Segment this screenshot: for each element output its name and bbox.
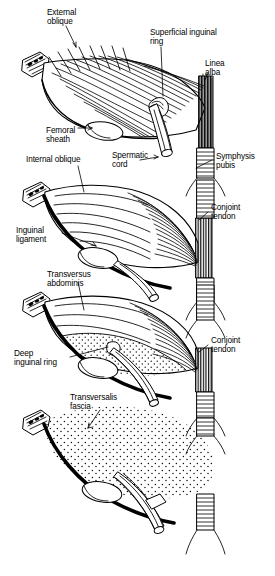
label-conjoint-tendon-2: Conjoint tendon (211, 336, 240, 355)
panel-4-group (23, 406, 225, 554)
label-femoral-sheath: Femoral sheath (46, 126, 75, 145)
panel-1-group (22, 26, 225, 196)
conjoint-tendon-3 (196, 348, 212, 392)
linea-alba-band (199, 74, 213, 148)
conjoint-tendon-2 (196, 218, 212, 278)
label-linea-alba: Linea alba (205, 59, 225, 78)
label-internal-oblique: Internal oblique (26, 155, 80, 164)
label-inguinal-ligament: Inguinal ligament (16, 226, 46, 245)
label-deep-inguinal-ring: Deep inguinal ring (14, 349, 57, 368)
label-spermatic-cord: Spermatic cord (112, 151, 148, 170)
label-transversus-abdominis: Transversus abdominis (47, 270, 91, 289)
label-superficial-inguinal-ring: Superficial inguinal ring (150, 28, 217, 47)
label-transversalis-fascia: Transversalis fascia (70, 393, 117, 412)
leader-external-oblique (66, 26, 76, 47)
label-external-oblique: External oblique (47, 8, 76, 27)
label-conjoint-tendon-1: Conjoint tendon (211, 203, 240, 222)
inguinal-canal-figure: External oblique Superficial inguinal ri… (0, 0, 275, 576)
panel-2-group (23, 155, 225, 320)
anatomy-illustration (0, 0, 275, 576)
label-symphysis-pubis: Symphysis pubis (216, 152, 255, 171)
